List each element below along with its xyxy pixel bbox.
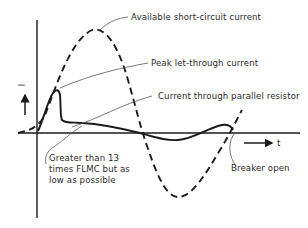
waveform-diagram: I t Available short-circuit current Peak… [0, 0, 308, 228]
x-axis-label: t [244, 138, 281, 148]
label-parallel-resistor: Current through parallel resistor [158, 91, 300, 101]
y-axis-label: I [18, 84, 27, 115]
leader-peak [60, 63, 148, 88]
label-peak-let-through: Peak let-through current [151, 58, 259, 68]
leader-breaker [230, 133, 236, 166]
label-greater-line2: times FLMC but as [49, 164, 130, 174]
x-axis-symbol: t [277, 138, 281, 148]
y-axis-symbol: I [18, 84, 27, 86]
leader-available [100, 17, 128, 30]
label-greater-line3: low as possible [49, 175, 116, 185]
label-available-short-circuit: Available short-circuit current [131, 12, 262, 22]
label-breaker-open: Breaker open [231, 163, 290, 173]
label-greater-line1: Greater than 13 [49, 153, 119, 163]
